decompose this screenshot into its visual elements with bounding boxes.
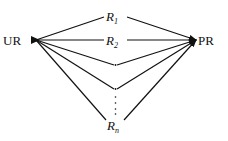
- route-diagram: UR PR R1 R2 Rn: [0, 0, 228, 141]
- route-r2-label: R2: [105, 33, 118, 50]
- route-rn-edge: [36, 40, 196, 120]
- source-node-label: UR: [3, 33, 21, 48]
- route-4-marker: [115, 88, 117, 90]
- ellipsis-icon: [115, 96, 117, 115]
- target-node-label: PR: [198, 33, 214, 48]
- route-3-marker: [115, 64, 117, 66]
- diagram-canvas: UR PR R1 R2 Rn: [0, 0, 228, 141]
- route-rn-label: Rn: [106, 118, 119, 135]
- route-r1-label: R1: [105, 9, 118, 26]
